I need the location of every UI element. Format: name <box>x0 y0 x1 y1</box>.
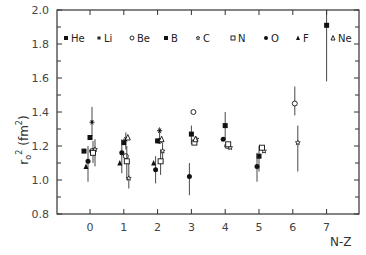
svg-text:O: O <box>271 33 279 44</box>
data-point-o <box>187 163 192 195</box>
legend-item-ne: Ne <box>331 33 352 44</box>
svg-text:B: B <box>171 33 178 44</box>
y-tick-label: 1.8 <box>32 38 50 51</box>
y-tick-label: 2.0 <box>32 4 50 17</box>
x-tick-label: 4 <box>222 221 229 234</box>
legend-item-he: He <box>64 33 85 44</box>
x-tick-label: 3 <box>188 221 195 234</box>
x-tick-label: 1 <box>120 221 127 234</box>
x-tick-label: 0 <box>87 221 94 234</box>
scatter-chart: 0.81.01.21.41.61.82.0 01234567 HeLiBeBCN… <box>0 0 366 255</box>
svg-text:Ne: Ne <box>338 33 352 44</box>
data-point-b <box>88 135 93 140</box>
data-point-c <box>295 126 300 172</box>
svg-text:Be: Be <box>137 33 150 44</box>
svg-text:N: N <box>238 33 245 44</box>
legend-item-o: O <box>264 33 279 44</box>
data-point-b <box>324 10 329 81</box>
data-point-n <box>226 142 231 147</box>
data-point-n <box>260 145 265 150</box>
data-point-be <box>292 87 297 116</box>
legend-item-c: C <box>196 33 210 44</box>
legend-item-f: F <box>296 33 309 44</box>
y-tick-label: 1.6 <box>32 72 50 85</box>
y-axis-title: ro2(fm2) <box>15 115 33 164</box>
y-tick-label: 1.4 <box>32 106 50 119</box>
legend-item-b: B <box>164 33 178 44</box>
data-point-b <box>223 112 228 139</box>
svg-text:He: He <box>71 33 85 44</box>
x-axis-title: N-Z <box>330 235 352 249</box>
y-tick-label: 1.2 <box>32 140 50 153</box>
y-tick-label: 0.8 <box>32 208 50 221</box>
x-tick-label: 7 <box>323 221 330 234</box>
x-tick-label: 6 <box>289 221 296 234</box>
x-tick-label: 5 <box>256 221 263 234</box>
data-point-o <box>221 137 226 142</box>
data-point-be <box>123 154 128 159</box>
x-tick-label: 2 <box>154 221 161 234</box>
legend: HeLiBeBCNOFNe <box>64 33 352 44</box>
svg-text:C: C <box>203 33 210 44</box>
data-point-be <box>191 110 196 115</box>
data-point-o <box>153 156 158 183</box>
legend-item-n: N <box>231 33 245 44</box>
data-point-li <box>90 107 95 136</box>
legend-item-be: Be <box>130 33 150 44</box>
legend-item-li: Li <box>97 33 112 44</box>
svg-text:Li: Li <box>104 33 112 44</box>
svg-text:ro2(fm2): ro2(fm2) <box>15 115 33 164</box>
y-tick-label: 1.0 <box>32 174 50 187</box>
data-point-he <box>82 149 87 154</box>
svg-text:F: F <box>303 33 309 44</box>
